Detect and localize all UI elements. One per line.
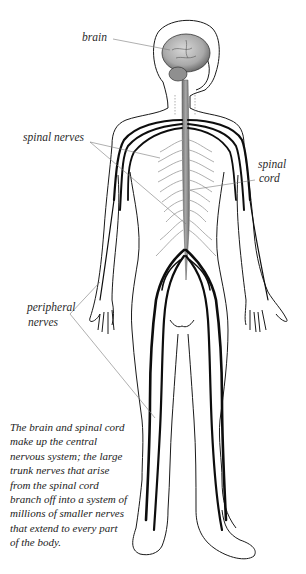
caption-line: trunk nerves that arise <box>10 463 135 477</box>
brain-icon <box>162 34 210 81</box>
caption-line: nervous system; the large <box>10 449 135 463</box>
brain-leader-line <box>113 39 170 50</box>
caption-line: of the body. <box>10 535 135 549</box>
peripheral-leader-line-2 <box>70 314 155 418</box>
caption-line: branch off into a system of <box>10 492 135 506</box>
caption-line: that extend to every part <box>10 521 135 535</box>
label-spinal-nerves: spinal nerves <box>23 131 84 144</box>
caption-line: millions of smaller nerves <box>10 506 135 520</box>
caption-line: The brain and spinal cord <box>10 420 135 434</box>
label-brain: brain <box>82 31 107 44</box>
label-spinal-cord-line1: spinal <box>258 158 286 171</box>
caption-line: from the spinal cord <box>10 478 135 492</box>
caption-line: make up the central <box>10 434 135 448</box>
label-peripheral-line1: peripheral <box>27 301 76 314</box>
caption: The brain and spinal cord make up the ce… <box>10 420 135 550</box>
label-peripheral-line2: nerves <box>28 316 58 329</box>
label-spinal-cord-line2: cord <box>259 172 280 185</box>
